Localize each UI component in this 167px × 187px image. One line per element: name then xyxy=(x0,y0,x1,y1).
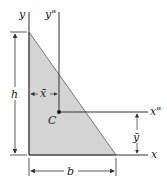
label-y: y xyxy=(18,8,26,21)
label-x-centroid: x" xyxy=(150,105,161,118)
label-y-bar: ȳ xyxy=(132,131,140,144)
label-y-centroid: y" xyxy=(44,8,56,21)
centroid-point xyxy=(57,110,61,114)
triangle-centroid-diagram: h b x̄ ȳ y y" x x" C xyxy=(0,0,167,187)
label-centroid: C xyxy=(48,114,57,127)
label-b: b xyxy=(67,165,74,178)
label-x-bar: x̄ xyxy=(40,87,47,100)
label-x: x xyxy=(151,148,158,161)
label-h: h xyxy=(11,88,18,101)
